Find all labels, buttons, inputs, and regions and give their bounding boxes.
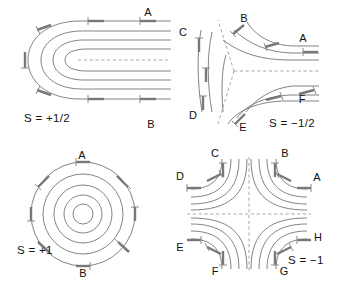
panel-s-minus-half: A B C D E F S = −1/2 xyxy=(171,0,342,141)
point-label-F: F xyxy=(212,265,219,277)
strength-label-s-plus-half: S = +1/2 xyxy=(24,112,70,124)
point-label-B: B xyxy=(281,147,288,159)
point-label-B: B xyxy=(240,12,247,24)
strength-label-s-minus-one: S = −1 xyxy=(288,254,324,266)
panel-s-plus-half: A B S = +1/2 xyxy=(0,0,171,141)
director-field-figure: A B S = +1/2 xyxy=(0,0,343,283)
point-label-G: G xyxy=(280,265,289,277)
point-label-C: C xyxy=(211,147,219,159)
point-label-A: A xyxy=(299,32,307,44)
point-label-A: A xyxy=(78,149,86,161)
point-label-C: C xyxy=(179,26,187,38)
panel-s-plus-one: A B S = +1 xyxy=(0,141,171,282)
point-label-F: F xyxy=(299,93,306,105)
panel-s-minus-one: A B C D E F G H S = −1 xyxy=(171,141,342,282)
point-label-A: A xyxy=(144,6,152,18)
point-label-D: D xyxy=(176,170,184,182)
strength-label-s-plus-one: S = +1 xyxy=(17,244,53,256)
point-label-A: A xyxy=(313,171,321,183)
strength-label-s-minus-half: S = −1/2 xyxy=(269,117,315,129)
point-label-H: H xyxy=(314,231,322,243)
point-label-B: B xyxy=(147,118,154,130)
point-label-D: D xyxy=(189,109,197,121)
point-label-E: E xyxy=(176,241,183,253)
point-label-E: E xyxy=(239,121,246,133)
point-label-B: B xyxy=(79,267,86,279)
